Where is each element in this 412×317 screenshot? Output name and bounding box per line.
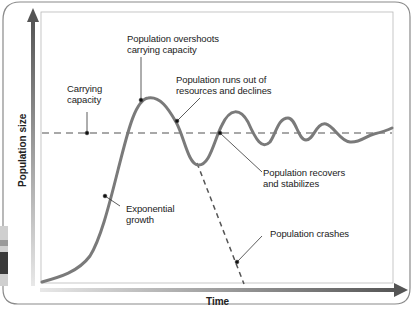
label-line: growth: [126, 214, 175, 225]
y-axis-title: Population size: [17, 114, 28, 187]
label-line: Population overshoots: [127, 33, 219, 44]
label-crashes: Population crashes: [270, 228, 349, 239]
label-overshoot: Population overshoots carrying capacity: [127, 33, 219, 55]
label-line: Population runs out of: [176, 74, 272, 85]
y-axis-arrow: [27, 8, 39, 286]
label-line: Population recovers: [263, 167, 345, 178]
label-line: Carrying: [67, 83, 102, 94]
label-line: resources and declines: [176, 85, 272, 96]
label-line: Exponential: [126, 203, 175, 214]
x-axis-title: Time: [206, 296, 229, 307]
label-line: and stabilizes: [263, 178, 345, 189]
x-axis-arrow: [40, 283, 408, 297]
label-line: capacity: [67, 94, 102, 105]
label-line: Population crashes: [270, 228, 349, 239]
label-exponential: Exponential growth: [126, 203, 175, 225]
side-thumbnail: [0, 226, 8, 286]
label-runs-out: Population runs out of resources and dec…: [176, 74, 272, 96]
label-carrying-capacity: Carrying capacity: [67, 83, 102, 105]
label-line: carrying capacity: [127, 44, 219, 55]
label-recovers: Population recovers and stabilizes: [263, 167, 345, 189]
